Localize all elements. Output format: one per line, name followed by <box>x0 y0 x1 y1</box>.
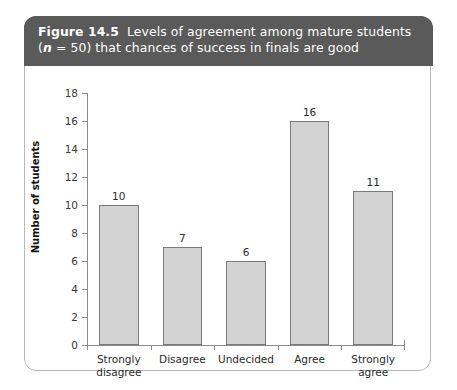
x-axis-tick <box>151 345 152 350</box>
y-axis-tick-label: 2 <box>71 311 78 323</box>
figure-title-line2-post: = 50) that chances of success in finals … <box>52 40 359 55</box>
x-axis-category-label: Strongly agree <box>351 353 395 379</box>
y-axis-tick <box>82 261 87 262</box>
x-axis-tick <box>404 345 405 350</box>
y-axis-tick-label: 4 <box>71 283 78 295</box>
x-axis-tick <box>278 345 279 350</box>
figure-card: Figure 14.5 Levels of agreement among ma… <box>24 16 431 371</box>
y-axis-tick-label: 14 <box>65 143 78 155</box>
figure-header: Figure 14.5 Levels of agreement among ma… <box>24 16 433 66</box>
y-axis-tick <box>82 177 87 178</box>
bar-value-label: 11 <box>366 176 379 188</box>
y-axis-tick-label: 18 <box>65 87 78 99</box>
y-axis-title: Number of students <box>30 141 41 254</box>
x-axis-tick <box>214 345 215 350</box>
bar: 11 <box>353 191 392 345</box>
y-axis-tick-label: 0 <box>71 339 78 351</box>
bar: 7 <box>163 247 202 345</box>
y-axis-tick <box>82 317 87 318</box>
bar: 16 <box>290 121 329 345</box>
figure-label: Figure 14.5 <box>38 24 119 39</box>
x-axis-category-label: Undecided <box>218 353 274 366</box>
bar-value-label: 6 <box>243 246 250 258</box>
y-axis-tick-label: 16 <box>65 115 78 127</box>
chart-plot-area: Number of students 02468101214161810Stro… <box>25 71 430 371</box>
figure-title-line1: Levels of agreement among mature student… <box>127 24 411 39</box>
x-axis-line <box>87 345 405 346</box>
y-axis-tick <box>82 289 87 290</box>
y-axis-tick <box>82 149 87 150</box>
y-axis-line <box>87 93 88 345</box>
x-axis-category-label: Strongly disagree <box>96 353 141 379</box>
y-axis-tick-label: 12 <box>65 171 78 183</box>
y-axis-tick <box>82 121 87 122</box>
bar-value-label: 7 <box>179 232 186 244</box>
bar: 6 <box>226 261 265 345</box>
figure-label-space <box>119 24 127 39</box>
x-axis-category-label: Agree <box>294 353 325 366</box>
bar-value-label: 10 <box>112 190 125 202</box>
bar: 10 <box>99 205 138 345</box>
y-axis-tick <box>82 93 87 94</box>
y-axis-tick <box>82 205 87 206</box>
x-axis-category-label: Disagree <box>159 353 206 366</box>
bar-chart: 02468101214161810Strongly disagree7Disag… <box>87 93 405 345</box>
bar-value-label: 16 <box>303 106 316 118</box>
y-axis-tick-label: 10 <box>65 199 78 211</box>
x-axis-tick <box>341 345 342 350</box>
figure-title-n: n <box>43 40 52 55</box>
x-axis-tick <box>87 345 88 350</box>
y-axis-tick <box>82 233 87 234</box>
y-axis-tick-label: 6 <box>71 255 78 267</box>
y-axis-tick-label: 8 <box>71 227 78 239</box>
